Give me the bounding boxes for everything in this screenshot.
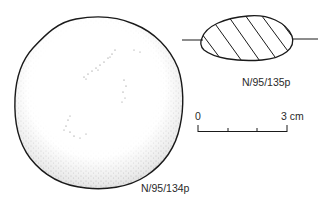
artifact-section-view [182, 8, 318, 66]
scale-start-label: 0 [195, 110, 201, 122]
drawing-canvas [0, 0, 319, 200]
plan-label: N/95/134p [141, 182, 189, 194]
scale-bar [198, 125, 287, 132]
scale-end-label: 3 cm [281, 110, 304, 122]
section-label: N/95/135p [242, 76, 290, 88]
artifact-plan-view [0, 0, 200, 200]
section-outline [201, 16, 293, 61]
